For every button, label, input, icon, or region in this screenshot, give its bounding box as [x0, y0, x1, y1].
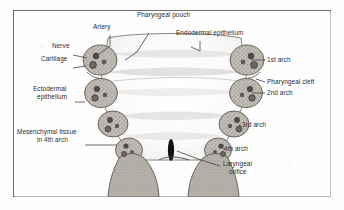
label-ectodermal-epithelium-line2: epithelium	[37, 93, 67, 100]
left-nerve-2	[103, 93, 108, 98]
left-artery-4	[123, 143, 128, 148]
label-1st-arch: 1st arch	[267, 56, 291, 63]
left-cartilage-3	[105, 126, 111, 132]
label-laryngeal-orifice-line1: Laryngeal	[223, 160, 252, 167]
right-nerve-3	[228, 124, 232, 128]
right-artery-4	[218, 143, 223, 148]
pharyngeal-arch-figure: Artery Pharyngeal pouch Endodermal epith…	[0, 0, 344, 210]
label-nerve: Nerve	[52, 42, 70, 49]
left-arch-2	[85, 79, 118, 108]
left-nerve-3	[115, 124, 119, 128]
leader-pharyngeal-cleft	[256, 79, 265, 82]
laryngeal-orifice-slit	[168, 139, 174, 161]
right-nerve-2	[240, 93, 245, 98]
label-4th-arch: 4th arch	[224, 145, 248, 152]
left-cartilage-2	[92, 95, 98, 101]
label-mesenchymal-line1: Mesenchymal tissue	[17, 128, 77, 135]
label-2nd-arch: 2nd arch	[267, 89, 293, 96]
left-cartilage-4	[122, 152, 127, 157]
left-nerve-1	[102, 60, 107, 65]
leader-cartilage	[73, 66, 86, 68]
label-pharyngeal-pouch: Pharyngeal pouch	[137, 11, 190, 18]
label-ectodermal-epithelium-line1: Ectodermal	[33, 85, 66, 92]
label-3rd-arch: 3rd arch	[242, 121, 266, 128]
label-artery: Artery	[93, 23, 111, 30]
right-cartilage-2	[249, 95, 255, 101]
right-artery-1	[248, 53, 254, 59]
left-artery-3	[107, 117, 113, 123]
right-artery-3	[234, 117, 240, 123]
left-arch-1	[83, 45, 117, 75]
label-pharyngeal-cleft: Pharyngeal cleft	[267, 78, 314, 85]
anatomical-illustration	[13, 10, 331, 197]
right-artery-2	[247, 86, 253, 92]
left-artery-2	[94, 86, 100, 92]
right-cartilage-1	[251, 62, 258, 69]
right-nerve-4	[213, 150, 217, 154]
left-nerve-4	[130, 150, 134, 154]
left-artery-1	[93, 53, 99, 59]
label-laryngeal-orifice-line2: orifice	[229, 168, 247, 175]
left-arch-3	[98, 111, 128, 137]
right-nerve-1	[241, 60, 246, 65]
label-cartilage: Cartilage	[41, 55, 67, 62]
left-cartilage-1	[90, 62, 97, 69]
label-mesenchymal-line2: in 4th arch	[37, 136, 68, 143]
label-endodermal-epithelium: Endodermal epithelium	[176, 29, 243, 36]
